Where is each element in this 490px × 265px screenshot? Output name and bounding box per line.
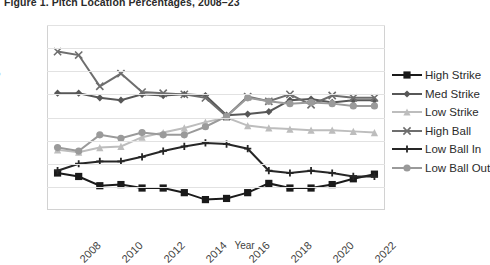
legend-label: Low Ball In — [422, 143, 481, 155]
legend-label: High Ball — [422, 125, 471, 137]
gridline — [47, 187, 385, 188]
gridline — [47, 71, 385, 72]
gridline — [47, 48, 385, 49]
gridline — [47, 94, 385, 95]
diamond-icon — [392, 87, 422, 101]
legend-item-low-ball-out[interactable]: Low Ball Out — [392, 159, 489, 178]
legend-item-high-ball[interactable]: High Ball — [392, 122, 489, 141]
gridline — [47, 118, 385, 119]
legend-label: Med Strike — [422, 88, 480, 100]
x-axis-title: Year — [0, 240, 489, 251]
legend-item-high-strike[interactable]: High Strike — [392, 66, 489, 85]
legend-item-low-strike[interactable]: Low Strike — [392, 103, 489, 122]
circle-icon — [392, 161, 422, 175]
square-icon — [392, 68, 422, 82]
plot-area: 101214161820222426 200820102012201420162… — [47, 25, 385, 210]
triangle-icon — [392, 105, 422, 119]
gridline — [47, 25, 385, 26]
legend-item-med-strike[interactable]: Med Strike — [392, 85, 489, 104]
figure-title: Figure 1. Pitch Location Percentages, 20… — [4, 0, 424, 8]
legend-label: High Strike — [422, 69, 481, 81]
legend-label: Low Strike — [422, 106, 479, 118]
legend-label: Low Ball Out — [422, 162, 490, 174]
legend-item-low-ball-in[interactable]: Low Ball In — [392, 140, 489, 159]
gridline — [47, 164, 385, 165]
gridline — [47, 141, 385, 142]
chart-legend: High StrikeMed StrikeLow StrikeHigh Ball… — [392, 66, 489, 177]
cross-x-icon — [392, 124, 422, 138]
plus-icon — [392, 142, 422, 156]
